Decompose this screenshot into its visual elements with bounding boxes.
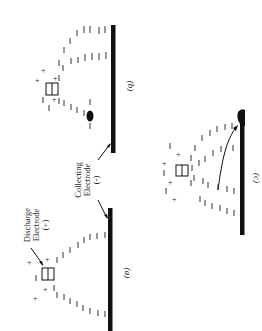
- svg-text:+: +: [43, 285, 48, 294]
- svg-text:+: +: [41, 66, 46, 75]
- charged-particle-b: [87, 111, 94, 122]
- svg-text:+: +: [35, 76, 40, 85]
- positive-ions-c: ++++: [162, 150, 181, 204]
- electrostatic-precipitator-diagram: ++++ (b) ++++: [0, 0, 262, 331]
- svg-text:+: +: [53, 74, 58, 83]
- positive-ions-a: ++++: [27, 255, 50, 303]
- svg-text:+: +: [33, 294, 38, 303]
- panel-label-b: (b): [126, 81, 136, 92]
- svg-text:+: +: [162, 159, 167, 168]
- collecting-electrode-annotation: Collecting Electrode (-): [73, 143, 111, 219]
- discharge-label-line3: (+): [40, 220, 50, 231]
- panel-b: ++++ (b): [35, 25, 136, 153]
- collecting-plate-c: [240, 110, 245, 235]
- svg-text:+: +: [172, 195, 177, 204]
- svg-text:+: +: [168, 178, 173, 187]
- panel-label-c: (c): [252, 173, 262, 183]
- collected-dust-layer-c: [237, 109, 245, 126]
- negative-ions-a: [36, 232, 105, 317]
- svg-text:+: +: [176, 150, 181, 159]
- svg-text:+: +: [52, 95, 57, 104]
- svg-text:+: +: [27, 258, 32, 267]
- panel-label-a: (a): [123, 268, 133, 279]
- collecting-label-line3: (-): [91, 176, 101, 185]
- svg-text:+: +: [45, 255, 50, 264]
- panel-c: ++++ (c): [162, 109, 262, 235]
- collecting-plate-a: [108, 208, 113, 331]
- particle-trajectory-arrow-c: [218, 126, 237, 190]
- collecting-plate-b: [111, 25, 116, 153]
